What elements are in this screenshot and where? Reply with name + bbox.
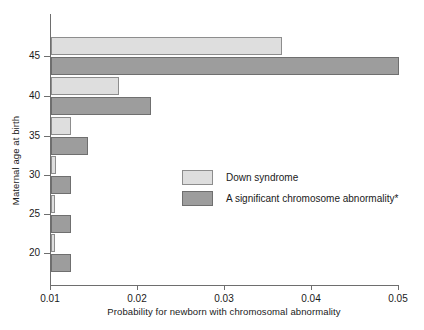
y-tick-label-45: 45: [18, 51, 40, 61]
legend-swatch-down-syndrome: [182, 170, 213, 185]
y-tick-label-20: 20: [18, 248, 40, 258]
legend-item-down-syndrome: Down syndrome: [182, 168, 398, 187]
bar-down-syndrome-age-40: [51, 77, 119, 95]
x-tick-0.04: [311, 285, 312, 290]
x-tick-0.01: [50, 285, 51, 290]
y-tick-label-35: 35: [18, 131, 40, 141]
y-tick-20: [44, 253, 50, 254]
bar-chromosome-abnormality-age-40: [51, 97, 151, 115]
x-tick-0.05: [398, 285, 399, 290]
y-tick-label-30: 30: [18, 170, 40, 180]
x-tick-label-0.02: 0.02: [114, 293, 160, 304]
bar-chromosome-abnormality-age-30: [51, 176, 71, 194]
x-tick-label-0.01: 0.01: [27, 293, 73, 304]
chart-legend: Down syndrome A significant chromosome a…: [182, 168, 398, 210]
bar-chromosome-abnormality-age-25: [51, 215, 71, 233]
x-tick-label-0.03: 0.03: [201, 293, 247, 304]
y-tick-30: [44, 175, 50, 176]
bar-down-syndrome-age-30: [51, 156, 56, 174]
y-tick-45: [44, 56, 50, 57]
chromosomal-abnormality-bar-chart: Maternal age at birth 202530354045 0.010…: [0, 0, 424, 330]
legend-swatch-chromosome-abnormality: [182, 191, 213, 206]
y-tick-35: [44, 136, 50, 137]
x-tick-label-0.04: 0.04: [288, 293, 334, 304]
y-tick-label-40: 40: [18, 91, 40, 101]
bar-down-syndrome-age-35: [51, 117, 71, 135]
bar-chromosome-abnormality-age-35: [51, 137, 88, 155]
bar-chromosome-abnormality-age-45: [51, 57, 399, 75]
y-tick-25: [44, 214, 50, 215]
x-tick-0.02: [137, 285, 138, 290]
x-tick-label-0.05: 0.05: [375, 293, 421, 304]
bar-down-syndrome-age-20: [51, 234, 55, 252]
legend-label-chromosome-abnormality: A significant chromosome abnormality*: [226, 193, 398, 204]
y-tick-label-25: 25: [18, 209, 40, 219]
x-tick-0.03: [224, 285, 225, 290]
x-axis-title: Probability for newborn with chromosomal…: [50, 306, 398, 317]
y-tick-40: [44, 96, 50, 97]
bar-down-syndrome-age-45: [51, 37, 282, 55]
legend-item-chromosome-abnormality: A significant chromosome abnormality*: [182, 189, 398, 208]
bar-down-syndrome-age-25: [51, 195, 55, 213]
legend-label-down-syndrome: Down syndrome: [226, 172, 298, 183]
bar-chromosome-abnormality-age-20: [51, 254, 71, 272]
